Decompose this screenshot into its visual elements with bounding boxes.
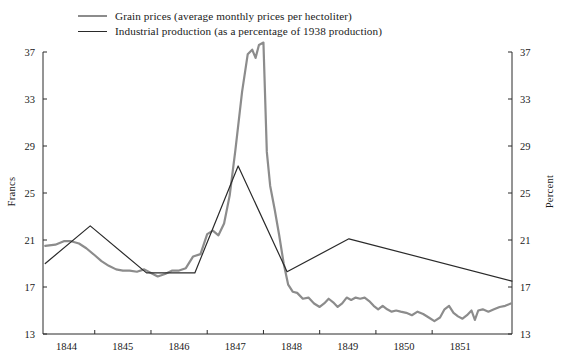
y-axis-left-tick-label: 17 <box>25 282 36 293</box>
y-axis-left-tick-label: 25 <box>25 188 36 199</box>
x-axis-tick-label: 1849 <box>337 341 358 352</box>
y-axis-right-tick-label: 33 <box>520 94 531 105</box>
y-axis-left-tick-label: 29 <box>25 141 36 152</box>
series-line-industrial-production <box>45 166 512 281</box>
chart-plot-svg: 13172125293337 13172125293337 1844184518… <box>0 0 563 357</box>
y-axis-right-tick-label: 17 <box>520 282 531 293</box>
x-axis-tick-label: 1845 <box>112 341 133 352</box>
chart-series-layer <box>45 43 512 321</box>
y-axis-right-tick-label: 25 <box>520 188 531 199</box>
x-axis-tick-label: 1844 <box>56 341 78 352</box>
y-axis-right-ticks: 13172125293337 <box>508 47 531 340</box>
y-axis-left-tick-label: 13 <box>25 329 36 340</box>
y-axis-left-tick-label: 37 <box>25 47 36 58</box>
y-axis-right-tick-label: 21 <box>520 235 531 246</box>
y-axis-left-ticks: 13172125293337 <box>25 47 48 340</box>
y-axis-right-tick-label: 29 <box>520 141 531 152</box>
y-axis-left-tick-label: 21 <box>25 235 36 246</box>
x-axis-tick-label: 1848 <box>281 341 302 352</box>
series-line-grain-prices <box>45 43 511 321</box>
y-axis-left-tick-label: 33 <box>25 94 36 105</box>
x-axis-ticks: 18441845184618471848184918501851 <box>56 330 471 352</box>
chart-container: Grain prices (average monthly prices per… <box>0 0 563 357</box>
x-axis-tick-label: 1850 <box>394 341 415 352</box>
y-axis-right-tick-label: 13 <box>520 329 531 340</box>
x-axis-tick-label: 1847 <box>225 341 246 352</box>
axis-lines <box>43 52 512 334</box>
x-axis-tick-label: 1851 <box>450 341 471 352</box>
y-axis-right-tick-label: 37 <box>520 47 531 58</box>
x-axis-tick-label: 1846 <box>169 341 190 352</box>
